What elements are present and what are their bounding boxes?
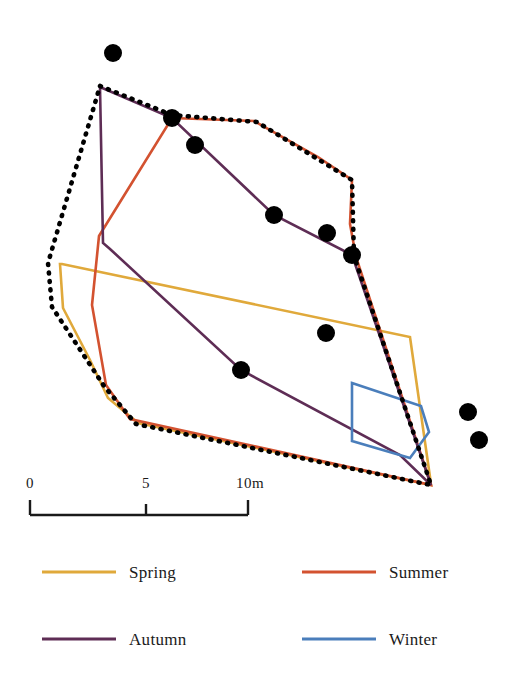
legend-item-autumn[interactable]: Autumn	[42, 630, 187, 649]
observation-point-marker	[317, 324, 335, 342]
legend-label-spring: Spring	[129, 563, 176, 582]
map-svg: 0 5 10m Spring Summer Autumn Winter	[0, 0, 523, 685]
observation-point-marker	[186, 136, 204, 154]
range-polygons-group	[48, 86, 431, 485]
scale-tick-label-10: 10m	[236, 475, 264, 491]
observation-point-marker	[343, 246, 361, 264]
range-polygon-summer	[92, 118, 431, 485]
legend: Spring Summer Autumn Winter	[42, 563, 448, 649]
scale-bar: 0 5 10m	[26, 475, 264, 515]
observation-point-marker	[232, 361, 250, 379]
observation-point-marker	[470, 431, 488, 449]
legend-label-summer: Summer	[389, 563, 448, 582]
legend-item-spring[interactable]: Spring	[42, 563, 176, 582]
legend-item-summer[interactable]: Summer	[302, 563, 448, 582]
seasonal-range-map-figure: 0 5 10m Spring Summer Autumn Winter	[0, 0, 523, 685]
observation-point-marker	[265, 206, 283, 224]
legend-item-winter[interactable]: Winter	[302, 630, 437, 649]
total-range-boundary-dotted	[48, 86, 431, 485]
legend-label-winter: Winter	[389, 630, 437, 649]
scale-bar-rule	[30, 500, 248, 515]
scale-tick-label-0: 0	[26, 475, 34, 491]
observation-point-marker	[104, 44, 122, 62]
observation-point-marker	[459, 403, 477, 421]
observation-points-group	[104, 44, 488, 449]
observation-point-marker	[163, 109, 181, 127]
legend-label-autumn: Autumn	[129, 630, 187, 649]
scale-tick-label-5: 5	[142, 475, 150, 491]
observation-point-marker	[318, 224, 336, 242]
